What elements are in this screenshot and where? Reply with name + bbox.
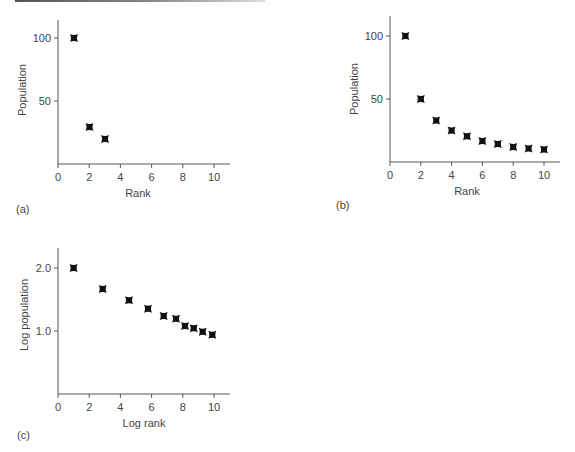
y-axis-title: Log population: [18, 279, 30, 351]
y-tick-label: 50: [371, 93, 383, 105]
x-tick-label: 8: [180, 401, 186, 413]
star-marker-icon: [432, 116, 440, 124]
star-marker-icon: [99, 285, 107, 293]
x-tick-label: 0: [387, 169, 393, 181]
star-marker-icon: [540, 146, 548, 154]
panel-label-c: (c): [17, 429, 30, 441]
star-marker-icon: [199, 328, 207, 336]
y-ticks: [386, 36, 390, 99]
star-marker-icon: [190, 324, 198, 332]
chart-b: 0 2 4 6 8 10 100 50 Rank Population (b): [290, 0, 575, 220]
x-tick-label: 10: [208, 401, 220, 413]
x-ticks: [390, 162, 544, 166]
star-marker-icon: [463, 132, 471, 140]
x-tick-label: 4: [117, 171, 123, 183]
panel-label-b: (b): [336, 199, 349, 211]
star-marker-icon: [144, 305, 152, 313]
x-tick-label: 6: [149, 171, 155, 183]
x-tick-label: 10: [208, 171, 220, 183]
star-marker-icon: [70, 264, 78, 272]
y-ticks: [54, 268, 58, 331]
star-marker-icon: [70, 34, 78, 42]
x-tick-label: 0: [55, 401, 61, 413]
chart-a: 0 2 4 6 8 10 100 50 Rank Population (a): [0, 0, 290, 220]
y-tick-label: 2.0: [36, 262, 51, 274]
star-marker-icon: [509, 143, 517, 151]
y-axis-title: Population: [16, 64, 28, 116]
x-tick-label: 4: [117, 401, 123, 413]
chart-c-plot: 0 2 4 6 8 10 2.0 1.0 Log rank Log popula…: [0, 230, 290, 452]
chart-b-plot: 0 2 4 6 8 10 100 50 Rank Population: [290, 0, 575, 220]
chart-a-plot: 0 2 4 6 8 10 100 50 Rank Population: [0, 0, 290, 220]
star-marker-icon: [125, 296, 133, 304]
star-marker-icon: [401, 32, 409, 40]
x-ticks: [58, 164, 214, 168]
y-ticks: [54, 38, 58, 101]
x-tick-label: 4: [449, 169, 455, 181]
y-tick-label: 100: [33, 32, 51, 44]
x-ticks: [58, 394, 214, 398]
x-axis-title: Rank: [125, 187, 151, 199]
star-marker-icon: [86, 123, 94, 131]
y-tick-label: 100: [365, 30, 383, 42]
y-tick-label: 50: [39, 95, 51, 107]
x-tick-label: 6: [479, 169, 485, 181]
x-tick-label: 2: [86, 171, 92, 183]
star-marker-icon: [160, 312, 168, 320]
x-tick-label: 0: [55, 171, 61, 183]
star-marker-icon: [417, 95, 425, 103]
star-marker-icon: [448, 127, 456, 135]
y-tick-label: 1.0: [36, 325, 51, 337]
star-marker-icon: [172, 315, 180, 323]
x-tick-label: 2: [86, 401, 92, 413]
x-tick-label: 8: [180, 171, 186, 183]
star-marker-icon: [208, 331, 216, 339]
star-marker-icon: [478, 137, 486, 145]
star-marker-icon: [525, 145, 533, 153]
data-points: [70, 264, 217, 339]
panel-label-a: (a): [16, 203, 29, 215]
star-marker-icon: [494, 140, 502, 148]
x-axis-title: Log rank: [123, 417, 166, 429]
x-tick-label: 6: [149, 401, 155, 413]
star-marker-icon: [181, 322, 189, 330]
data-points: [401, 32, 548, 154]
x-axis-title: Rank: [454, 185, 480, 197]
x-tick-label: 10: [538, 169, 550, 181]
x-tick-label: 2: [418, 169, 424, 181]
y-axis-title: Population: [348, 63, 360, 115]
chart-c: 0 2 4 6 8 10 2.0 1.0 Log rank Log popula…: [0, 230, 290, 452]
x-tick-label: 8: [510, 169, 516, 181]
data-points: [70, 34, 109, 143]
star-marker-icon: [101, 135, 109, 143]
